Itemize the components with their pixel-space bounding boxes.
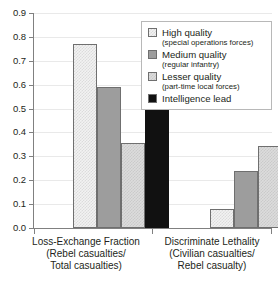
category-label-line-2: (Civilian casualties/ — [146, 248, 278, 260]
legend-sublabel-lesser-quality: (part-time local forces) — [162, 82, 266, 92]
y-tick-label: 0.6 — [0, 80, 26, 90]
legend-label-medium-quality: Medium quality — [162, 49, 266, 60]
y-tick-label: 0.8 — [0, 32, 26, 42]
bar-loss-exchange-fraction-medium-quality — [97, 87, 121, 228]
legend-swatch-lesser-quality — [148, 72, 157, 81]
legend-text-group: Medium quality (regular infantry) — [162, 49, 266, 70]
bar-discriminate-lethality-high-quality — [210, 209, 234, 228]
bar-loss-exchange-fraction-lesser-quality — [121, 143, 145, 228]
category-label-line-3: Rebel casualty) — [146, 260, 278, 272]
legend-swatch-intelligence-lead — [148, 94, 157, 103]
legend-sublabel-medium-quality: (regular infantry) — [162, 60, 266, 70]
y-tick-label: 0.1 — [0, 199, 26, 209]
legend-swatch-medium-quality — [148, 50, 157, 59]
y-tick-label: 0.4 — [0, 127, 26, 137]
legend-item-lesser-quality[interactable]: Lesser quality (part-time local forces) — [148, 71, 266, 92]
category-label-line-1: Discriminate Lethality — [146, 236, 278, 248]
y-tick-label: 0.7 — [0, 56, 26, 66]
legend-text-group: Intelligence lead — [162, 93, 266, 104]
category-label-line-2: (Rebel casualties/ — [20, 248, 152, 260]
category-label-line-1: Loss-Exchange Fraction — [20, 236, 152, 248]
y-tick-label: 0.0 — [0, 223, 26, 233]
axis-tick-middle — [152, 228, 153, 234]
bar-discriminate-lethality-lesser-quality — [258, 146, 278, 228]
axis-tick-right — [271, 228, 272, 234]
legend-item-medium-quality[interactable]: Medium quality (regular infantry) — [148, 49, 266, 70]
category-label-line-3: Total casualties) — [20, 260, 152, 272]
legend-label-high-quality: High quality — [162, 27, 266, 38]
category-label-discriminate-lethality: Discriminate Lethality (Civilian casualt… — [146, 236, 278, 273]
legend: High quality (special operations forces)… — [141, 21, 272, 110]
legend-item-high-quality[interactable]: High quality (special operations forces) — [148, 27, 266, 48]
y-tick-label: 0.2 — [0, 175, 26, 185]
y-tick-label: 0.5 — [0, 104, 26, 114]
legend-sublabel-high-quality: (special operations forces) — [162, 38, 266, 48]
legend-item-intelligence-lead[interactable]: Intelligence lead — [148, 93, 266, 104]
legend-label-intelligence-lead: Intelligence lead — [162, 93, 266, 104]
category-label-loss-exchange-fraction: Loss-Exchange Fraction (Rebel casualties… — [20, 236, 152, 273]
bar-discriminate-lethality-medium-quality — [234, 171, 258, 228]
bar-loss-exchange-fraction-high-quality — [73, 44, 97, 228]
y-tick-label: 0.9 — [0, 8, 26, 18]
y-tick-label: 0.3 — [0, 151, 26, 161]
x-axis-line — [34, 228, 272, 229]
legend-label-lesser-quality: Lesser quality — [162, 71, 266, 82]
axis-tick-left — [34, 228, 35, 234]
legend-swatch-high-quality — [148, 28, 157, 37]
legend-text-group: High quality (special operations forces) — [162, 27, 266, 48]
bar-chart: 0.90.80.70.60.50.40.30.20.10.0 Loss-Exch… — [0, 0, 278, 290]
legend-text-group: Lesser quality (part-time local forces) — [162, 71, 266, 92]
